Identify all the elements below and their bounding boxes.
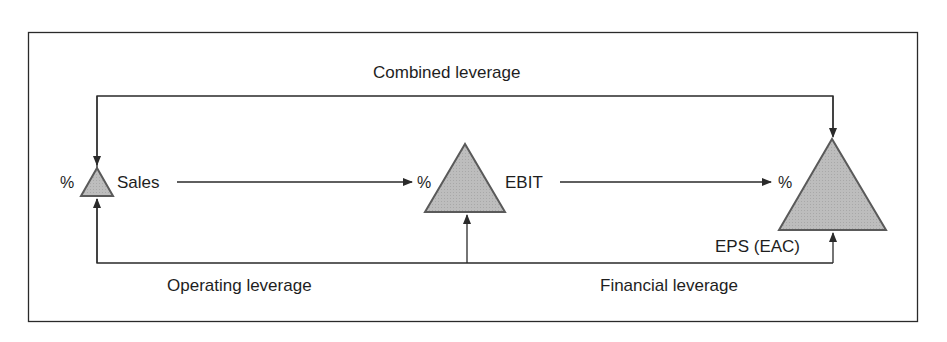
ebit-triangle-icon bbox=[425, 144, 505, 212]
eps-triangle-icon bbox=[779, 139, 886, 230]
sales-label: Sales bbox=[117, 174, 160, 191]
financial-leverage-label: Financial leverage bbox=[600, 277, 738, 294]
operating-leverage-label: Operating leverage bbox=[167, 277, 312, 294]
leverage-diagram: Combined leverage % Sales % EBIT % EPS (… bbox=[0, 0, 947, 342]
sales-percent: % bbox=[60, 175, 74, 191]
eps-label: EPS (EAC) bbox=[715, 238, 800, 255]
ebit-label: EBIT bbox=[505, 174, 543, 191]
eps-percent: % bbox=[778, 175, 792, 191]
diagram-canvas bbox=[0, 0, 947, 342]
combined-leverage-label: Combined leverage bbox=[373, 64, 520, 81]
sales-triangle-icon bbox=[81, 168, 113, 196]
ebit-percent: % bbox=[417, 175, 431, 191]
